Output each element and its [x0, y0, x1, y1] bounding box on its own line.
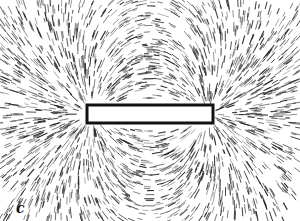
bar-magnet — [0, 0, 300, 221]
panel-label: c — [16, 200, 25, 216]
magnet-field-figure: c — [0, 0, 300, 221]
